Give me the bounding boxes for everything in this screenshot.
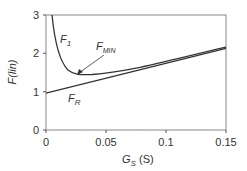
x-tick-015: 0.15: [215, 136, 236, 148]
fmin-arrow: [79, 55, 104, 73]
y-axis: 0 1 2 3: [33, 9, 46, 136]
y-tick-1: 1: [33, 86, 39, 98]
f1-label: F1: [60, 33, 71, 48]
f1-curve: [52, 15, 226, 75]
fr-line: [46, 48, 226, 93]
x-tick-01: 0.1: [158, 136, 173, 148]
fr-label: FR: [68, 92, 81, 107]
y-tick-3: 3: [33, 9, 39, 21]
fmin-label: FMIN: [96, 40, 117, 54]
x-axis-label: GS (S): [122, 153, 154, 168]
chart: 0 1 2 3 0 0.05 0.1 0.15 F1 FMIN FR F(lin…: [0, 0, 247, 171]
x-axis: 0 0.05 0.1 0.15: [43, 130, 237, 148]
x-tick-0: 0: [43, 136, 49, 148]
x-tick-005: 0.05: [95, 136, 116, 148]
y-tick-2: 2: [33, 47, 39, 59]
y-tick-0: 0: [33, 124, 39, 136]
y-axis-label: F(lin): [6, 59, 18, 84]
